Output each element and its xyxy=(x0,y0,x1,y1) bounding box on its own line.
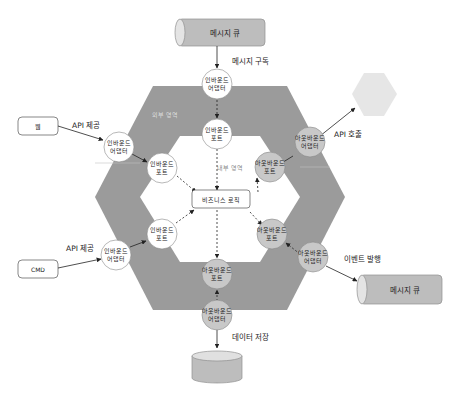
node-label: 인바운드 xyxy=(150,226,174,234)
cmd-api-label: API 제공 xyxy=(66,244,94,253)
database-cylinder xyxy=(192,351,242,383)
node-label: 포트 xyxy=(211,274,223,281)
message-queue-top: 메시지 큐 xyxy=(175,19,265,46)
data-store-label: 데이터 저장 xyxy=(232,332,269,342)
inbound-adapter-lowerleft: 인바운드 어댑터 xyxy=(101,240,131,270)
subscribe-label: 메시지 구독 xyxy=(232,57,269,66)
message-queue-right-label: 메시지 큐 xyxy=(390,286,420,295)
node-label: 아웃바운드 xyxy=(202,307,232,315)
outbound-adapter-lower: 아웃바운드 어댑터 xyxy=(298,242,328,272)
node-label: 어댑터 xyxy=(208,84,226,92)
node-label: 인바운드 xyxy=(205,76,229,84)
node-label: 어댑터 xyxy=(304,257,322,265)
node-label: 아웃바운드 xyxy=(295,134,325,142)
node-label: 포트 xyxy=(211,134,223,141)
outbound-port-lower: 아웃바운드 포트 xyxy=(257,219,287,249)
web-label: 웹 xyxy=(35,123,41,130)
outer-region-label: 외부 영역 xyxy=(152,111,178,119)
node-label: 포트 xyxy=(266,234,278,241)
message-queue-right: 메시지 큐 xyxy=(357,275,442,304)
node-label: 포트 xyxy=(156,234,168,241)
business-logic-label: 비즈니스 로직 xyxy=(202,196,240,204)
node-label: 어댑터 xyxy=(110,147,128,155)
api-call-label: API 호출 xyxy=(334,129,362,139)
node-label: 인바운드 xyxy=(150,160,174,168)
arrow-cmd-api xyxy=(58,259,101,268)
node-label: 아웃바운드 xyxy=(202,266,232,274)
node-label: 아웃바운드 xyxy=(257,226,287,234)
node-label: 인바운드 xyxy=(104,247,128,255)
node-label: 인바운드 xyxy=(107,139,131,147)
hexagonal-architecture-diagram: 외부 영역 내부 영역 메시지 큐 메시지 큐 웹 CMD xyxy=(0,0,459,393)
inbound-port-left: 인바운드 포트 xyxy=(147,153,177,183)
node-label: 포트 xyxy=(156,168,168,175)
web-client-box: 웹 xyxy=(18,117,58,135)
business-logic-box: 비즈니스 로직 xyxy=(192,190,250,208)
node-label: 인바운드 xyxy=(205,126,229,134)
node-label: 어댑터 xyxy=(208,315,226,323)
outbound-adapter-bottom: 아웃바운드 어댑터 xyxy=(202,300,232,330)
inbound-port-lowerleft: 인바운드 포트 xyxy=(147,219,177,249)
node-label: 어댑터 xyxy=(301,142,319,150)
external-system-hexagon xyxy=(352,73,397,116)
message-queue-top-label: 메시지 큐 xyxy=(210,29,240,38)
web-api-label: API 제공 xyxy=(72,121,100,130)
inbound-port-top: 인바운드 포트 xyxy=(202,119,232,149)
node-label: 아웃바운드 xyxy=(255,159,285,167)
arrow-event-publish xyxy=(326,266,357,281)
inbound-adapter-left: 인바운드 어댑터 xyxy=(104,132,134,162)
cmd-label: CMD xyxy=(31,266,45,273)
inbound-adapter-top: 인바운드 어댑터 xyxy=(202,69,232,99)
node-label: 어댑터 xyxy=(107,255,125,263)
node-label: 포트 xyxy=(264,167,276,174)
inner-region-label: 내부 영역 xyxy=(217,164,243,172)
outbound-adapter-upper: 아웃바운드 어댑터 xyxy=(295,127,325,157)
event-publish-label: 이벤트 발행 xyxy=(344,254,381,264)
cmd-client-box: CMD xyxy=(18,260,58,278)
outbound-port-upper: 아웃바운드 포트 xyxy=(255,152,285,182)
outbound-port-bottom: 아웃바운드 포트 xyxy=(202,259,232,289)
node-label: 아웃바운드 xyxy=(298,249,328,257)
